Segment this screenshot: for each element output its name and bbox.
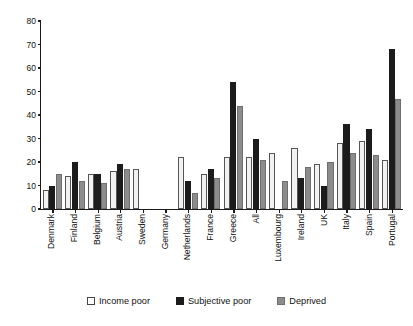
y-axis-tick-label: 40 — [0, 111, 41, 120]
bar-income — [43, 190, 49, 209]
x-axis-label-cell: Finland — [63, 212, 86, 290]
bar-income — [382, 160, 388, 209]
bar-subjective — [321, 186, 327, 210]
y-axis-tick-label: 30 — [0, 135, 41, 144]
y-axis-tick-label: 60 — [0, 64, 41, 73]
x-axis-label: Belgium — [92, 214, 101, 245]
x-axis-label: Finland — [70, 214, 79, 242]
bar-group — [132, 21, 155, 209]
x-axis-label-cell: All — [244, 212, 267, 290]
bar-income — [359, 141, 365, 209]
bar-income — [133, 169, 139, 209]
x-axis-label-cell: Ireland — [290, 212, 313, 290]
bar-subjective — [230, 82, 236, 209]
bar-group — [335, 21, 358, 209]
bar-subjective — [366, 129, 372, 209]
legend-item[interactable]: Income poor — [87, 296, 150, 306]
x-axis-label-cell: Germany — [153, 212, 176, 290]
bar-subjective — [253, 139, 259, 210]
x-axis-label: Netherlands — [183, 214, 192, 260]
x-axis-label-cell: Greece — [222, 212, 245, 290]
bar-income — [110, 171, 116, 209]
x-axis-label: Italy — [342, 214, 351, 230]
plot-area: 01020304050607080 — [40, 21, 403, 210]
x-axis-label-cell: Italy — [335, 212, 358, 290]
y-axis-tick-label: 0 — [0, 205, 41, 214]
legend-label: Income poor — [99, 296, 150, 306]
legend-swatch-icon — [87, 297, 95, 305]
y-axis-tick-label: 50 — [0, 88, 41, 97]
bar-group — [64, 21, 87, 209]
bar-group — [358, 21, 381, 209]
legend-swatch-icon — [277, 297, 285, 305]
bar-group — [109, 21, 132, 209]
bar-deprived — [350, 153, 356, 209]
x-axis-label-cell: France — [199, 212, 222, 290]
bar-income — [291, 148, 297, 209]
bar-deprived — [305, 167, 311, 209]
bar-deprived — [282, 181, 288, 209]
bar-subjective — [94, 174, 100, 209]
bar-income — [337, 143, 343, 209]
x-axis-label-cell: Sweden — [131, 212, 154, 290]
x-axis-label-cell: UK — [312, 212, 335, 290]
x-axis-label: Germany — [160, 214, 169, 249]
x-axis-label: Greece — [228, 214, 237, 242]
legend-item[interactable]: Subjective poor — [176, 296, 251, 306]
legend-label: Deprived — [289, 296, 326, 306]
bar-deprived — [56, 174, 62, 209]
bar-group — [154, 21, 177, 209]
bar-deprived — [327, 162, 333, 209]
y-axis-tick-label: 20 — [0, 158, 41, 167]
bar-deprived — [124, 169, 130, 209]
bar-deprived — [79, 181, 85, 209]
x-axis-label-cell: Belgium — [85, 212, 108, 290]
chart-container: 01020304050607080 DenmarkFinlandBelgiumA… — [0, 0, 413, 326]
x-axis-label: All — [251, 214, 260, 224]
bar-deprived — [101, 183, 107, 209]
bar-subjective — [72, 162, 78, 209]
x-axis-label: France — [206, 214, 215, 241]
bar-income — [314, 164, 320, 209]
bar-group — [222, 21, 245, 209]
bar-subjective — [117, 164, 123, 209]
chart-legend: Income poorSubjective poorDeprived — [0, 296, 413, 306]
x-axis-label: Denmark — [47, 214, 56, 249]
bar-group — [267, 21, 290, 209]
bar-income — [178, 157, 184, 209]
x-axis-label: Portugal — [387, 214, 396, 246]
bar-subjective — [49, 186, 55, 210]
bar-subjective — [185, 181, 191, 209]
legend-label: Subjective poor — [188, 296, 251, 306]
bar-group — [177, 21, 200, 209]
bar-income — [201, 174, 207, 209]
bar-group — [380, 21, 403, 209]
bar-group — [313, 21, 336, 209]
legend-item[interactable]: Deprived — [277, 296, 326, 306]
bar-deprived — [192, 193, 198, 209]
bar-income — [65, 176, 71, 209]
bar-subjective — [298, 178, 304, 209]
x-axis-label: Spain — [364, 214, 373, 236]
bar-subjective — [208, 169, 214, 209]
bar-group — [290, 21, 313, 209]
bar-group — [86, 21, 109, 209]
bar-deprived — [395, 99, 401, 209]
x-axis-label: UK — [319, 214, 328, 226]
bar-groups — [41, 21, 403, 209]
legend-swatch-icon — [176, 297, 184, 305]
x-axis-label: Austria — [115, 214, 124, 241]
x-axis-label-cell: Austria — [108, 212, 131, 290]
bar-group — [41, 21, 64, 209]
bar-subjective — [343, 124, 349, 209]
bar-deprived — [260, 160, 266, 209]
bar-deprived — [214, 178, 220, 209]
x-axis-labels: DenmarkFinlandBelgiumAustriaSwedenGerman… — [40, 212, 403, 290]
y-axis-tick-label: 70 — [0, 41, 41, 50]
x-axis-label: Ireland — [296, 214, 305, 240]
bar-income — [246, 157, 252, 209]
x-axis-label: Luxembourg — [274, 214, 283, 262]
x-axis-label-cell: Denmark — [40, 212, 63, 290]
bar-subjective — [389, 49, 395, 209]
x-axis-label: Sweden — [138, 214, 147, 245]
